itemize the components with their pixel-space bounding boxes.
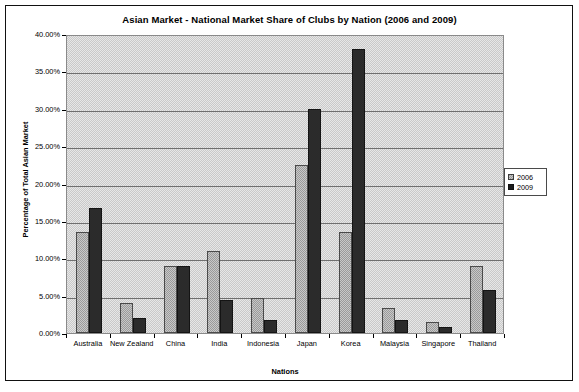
x-axis-tick-mark bbox=[504, 334, 505, 338]
y-axis-tick-mark bbox=[62, 72, 66, 73]
gridline bbox=[67, 148, 503, 149]
bar-india-2006 bbox=[207, 251, 220, 333]
legend-label: 2006 bbox=[517, 173, 533, 182]
x-axis-tick-mark bbox=[460, 334, 461, 338]
gridline bbox=[67, 223, 503, 224]
y-axis-tick-label: 0.00% bbox=[4, 330, 60, 338]
y-axis-tick-label: 25.00% bbox=[4, 143, 60, 151]
bar-malaysia-2006 bbox=[382, 308, 395, 333]
bar-china-2009 bbox=[177, 266, 190, 333]
chart-title: Asian Market - National Market Share of … bbox=[0, 14, 579, 25]
x-axis-tick-mark bbox=[373, 334, 374, 338]
bar-new-zealand-2009 bbox=[133, 318, 146, 333]
y-axis-tick-mark bbox=[62, 297, 66, 298]
bar-korea-2006 bbox=[339, 232, 352, 333]
y-axis-tick-label: 15.00% bbox=[4, 218, 60, 226]
bar-korea-2009 bbox=[352, 49, 365, 333]
bar-australia-2009 bbox=[89, 208, 102, 333]
bar-singapore-2009 bbox=[439, 327, 452, 333]
y-axis-tick-label: 35.00% bbox=[4, 68, 60, 76]
x-axis-tick-label: Thailand bbox=[452, 339, 512, 349]
x-axis-tick-mark bbox=[154, 334, 155, 338]
y-axis-tick-label: 10.00% bbox=[4, 255, 60, 263]
bar-japan-2009 bbox=[308, 109, 321, 333]
x-axis-tick-mark bbox=[66, 334, 67, 338]
bar-australia-2006 bbox=[76, 232, 89, 333]
plot-area bbox=[66, 35, 504, 334]
x-axis-tick-mark bbox=[416, 334, 417, 338]
bar-india-2009 bbox=[220, 300, 233, 333]
legend-item-2006[interactable]: 2006 bbox=[508, 172, 543, 182]
y-axis-tick-mark bbox=[62, 147, 66, 148]
legend-swatch-icon bbox=[508, 174, 514, 180]
x-axis-tick-mark bbox=[285, 334, 286, 338]
y-axis-tick-mark bbox=[62, 35, 66, 36]
chart-container: Asian Market - National Market Share of … bbox=[0, 0, 579, 392]
legend-item-2009[interactable]: 2009 bbox=[508, 182, 543, 192]
gridline bbox=[67, 186, 503, 187]
gridline bbox=[67, 298, 503, 299]
bar-china-2006 bbox=[164, 266, 177, 333]
y-axis-tick-label: 5.00% bbox=[4, 293, 60, 301]
y-axis-tick-mark bbox=[62, 110, 66, 111]
bar-malaysia-2009 bbox=[395, 320, 408, 333]
x-axis-tick-mark bbox=[329, 334, 330, 338]
y-axis-tick-label: 20.00% bbox=[4, 181, 60, 189]
y-axis-tick-mark bbox=[62, 259, 66, 260]
gridline bbox=[67, 260, 503, 261]
bar-thailand-2009 bbox=[483, 290, 496, 333]
x-axis-tick-mark bbox=[197, 334, 198, 338]
bar-indonesia-2009 bbox=[264, 320, 277, 333]
chart-legend: 20062009 bbox=[504, 168, 547, 196]
legend-swatch-icon bbox=[508, 184, 514, 190]
y-axis-tick-mark bbox=[62, 222, 66, 223]
x-axis-tick-mark bbox=[110, 334, 111, 338]
bar-new-zealand-2006 bbox=[120, 303, 133, 333]
bar-singapore-2006 bbox=[426, 322, 439, 333]
y-axis-tick-mark bbox=[62, 185, 66, 186]
gridline bbox=[67, 111, 503, 112]
y-axis-tick-label: 30.00% bbox=[4, 106, 60, 114]
x-axis-title: Nations bbox=[66, 367, 504, 376]
gridline bbox=[67, 73, 503, 74]
bar-thailand-2006 bbox=[470, 266, 483, 333]
legend-label: 2009 bbox=[517, 183, 533, 192]
y-axis-tick-label: 40.00% bbox=[4, 31, 60, 39]
bar-indonesia-2006 bbox=[251, 298, 264, 333]
x-axis-tick-mark bbox=[241, 334, 242, 338]
bar-japan-2006 bbox=[295, 165, 308, 333]
